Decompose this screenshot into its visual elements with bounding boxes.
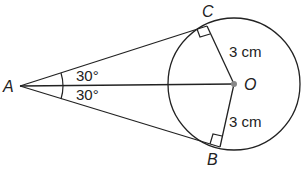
label-a: A	[2, 78, 14, 95]
tangent-ac	[20, 26, 207, 86]
length-label-oc: 3 cm	[229, 43, 262, 60]
tangent-diagram: A C O B 30° 30° 3 cm 3 cm	[0, 0, 304, 171]
label-o: O	[244, 76, 256, 93]
label-b: B	[207, 151, 218, 168]
angle-label-upper: 30°	[76, 67, 99, 84]
label-c: C	[202, 3, 214, 20]
right-angle-b	[210, 134, 222, 144]
line-ao	[20, 84, 234, 86]
center-dot-o	[231, 81, 237, 87]
angle-arc-lower	[61, 86, 63, 99]
angle-label-lower: 30°	[76, 86, 99, 103]
angle-arc-upper	[61, 73, 63, 86]
length-label-ob: 3 cm	[229, 113, 262, 130]
tangent-ab	[20, 86, 220, 147]
right-angle-c	[197, 29, 210, 37]
